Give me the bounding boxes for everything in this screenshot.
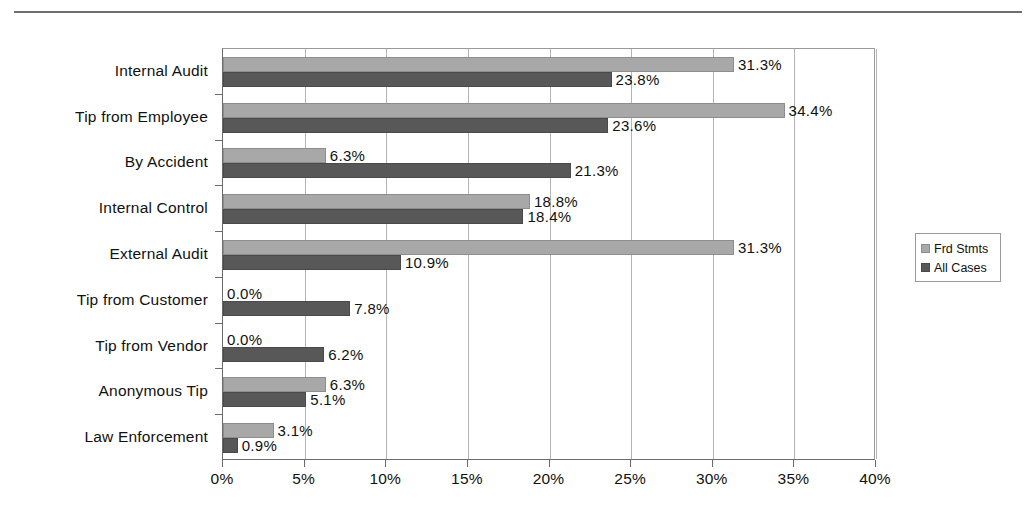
value-label: 31.3% <box>738 57 782 72</box>
bar-frd-stmts-0 <box>223 57 734 72</box>
category-label-law-enforcement: Law Enforcement <box>8 428 208 446</box>
x-axis-tick <box>793 460 794 467</box>
value-label: 18.8% <box>534 194 578 209</box>
x-axis-tick-label: 5% <box>274 470 334 488</box>
bar-frd-stmts-2 <box>223 148 326 163</box>
value-label: 6.2% <box>328 347 363 362</box>
value-label: 31.3% <box>738 240 782 255</box>
x-axis-tick-label: 40% <box>845 470 905 488</box>
x-axis-tick <box>712 460 713 467</box>
value-label: 0.0% <box>227 286 262 301</box>
x-axis-tick <box>304 460 305 467</box>
category-axis-labels: Internal AuditTip from EmployeeBy Accide… <box>0 0 208 521</box>
value-label: 21.3% <box>575 163 619 178</box>
category-label-by-accident: By Accident <box>8 153 208 171</box>
value-label: 18.4% <box>527 209 571 224</box>
x-axis-tick <box>630 460 631 467</box>
legend-item-all-cases: All Cases <box>921 258 996 277</box>
x-axis-tick-label: 25% <box>600 470 660 488</box>
y-axis-tick <box>215 140 222 141</box>
bar-all-cases-3 <box>223 209 523 224</box>
bar-all-cases-1 <box>223 118 608 133</box>
legend-swatch-icon-all-cases <box>921 263 930 272</box>
y-axis-tick <box>215 414 222 415</box>
y-axis-tick <box>215 94 222 95</box>
x-axis-tick-label: 20% <box>519 470 579 488</box>
x-axis-tick <box>222 460 223 467</box>
value-label: 5.1% <box>310 392 345 407</box>
value-label: 6.3% <box>330 148 365 163</box>
legend-item-frd-stmts: Frd Stmts <box>921 239 996 258</box>
value-label: 23.8% <box>616 72 660 87</box>
category-label-tip-from-customer: Tip from Customer <box>8 291 208 309</box>
y-axis-tick <box>215 368 222 369</box>
bar-all-cases-4 <box>223 255 401 270</box>
bar-frd-stmts-4 <box>223 240 734 255</box>
bar-frd-stmts-7 <box>223 377 326 392</box>
category-label-tip-from-employee: Tip from Employee <box>8 108 208 126</box>
bar-all-cases-8 <box>223 438 238 453</box>
value-label: 0.0% <box>227 332 262 347</box>
value-label: 10.9% <box>405 255 449 270</box>
x-axis-tick <box>875 460 876 467</box>
legend-label-frd-stmts: Frd Stmts <box>934 242 988 256</box>
chart-page: Internal AuditTip from EmployeeBy Accide… <box>0 0 1035 521</box>
value-label: 34.4% <box>789 103 833 118</box>
gridline <box>876 49 877 459</box>
category-label-anonymous-tip: Anonymous Tip <box>8 382 208 400</box>
value-label: 3.1% <box>278 423 313 438</box>
bar-all-cases-7 <box>223 392 306 407</box>
bar-frd-stmts-1 <box>223 103 785 118</box>
legend-swatch-icon-frd-stmts <box>921 244 930 253</box>
x-axis-tick <box>467 460 468 467</box>
y-axis-tick <box>215 231 222 232</box>
legend-label-all-cases: All Cases <box>934 261 987 275</box>
y-axis-tick <box>215 277 222 278</box>
x-axis-tick-label: 30% <box>682 470 742 488</box>
value-label: 6.3% <box>330 377 365 392</box>
bar-all-cases-2 <box>223 163 571 178</box>
x-axis-tick-label: 15% <box>437 470 497 488</box>
bar-all-cases-6 <box>223 347 324 362</box>
category-label-internal-audit: Internal Audit <box>8 62 208 80</box>
bar-all-cases-5 <box>223 301 350 316</box>
bar-frd-stmts-3 <box>223 194 530 209</box>
value-label: 7.8% <box>354 301 389 316</box>
bar-frd-stmts-8 <box>223 423 274 438</box>
x-axis-tick-label: 0% <box>192 470 252 488</box>
category-label-external-audit: External Audit <box>8 245 208 263</box>
x-axis-tick <box>385 460 386 467</box>
x-axis-tick-label: 10% <box>355 470 415 488</box>
y-axis-tick <box>215 323 222 324</box>
value-label: 0.9% <box>242 438 277 453</box>
x-axis-tick <box>549 460 550 467</box>
bar-all-cases-0 <box>223 72 612 87</box>
category-label-tip-from-vendor: Tip from Vendor <box>8 337 208 355</box>
value-label: 23.6% <box>612 118 656 133</box>
chart-legend: Frd Stmts All Cases <box>915 233 1001 282</box>
y-axis-tick <box>215 185 222 186</box>
x-axis-tick-label: 35% <box>763 470 823 488</box>
category-label-internal-control: Internal Control <box>8 199 208 217</box>
